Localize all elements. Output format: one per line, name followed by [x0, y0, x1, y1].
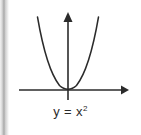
x-axis-arrow-icon — [121, 86, 129, 95]
parabola-figure: y = x2 — [0, 0, 141, 135]
equation-label: y = x2 — [0, 104, 141, 119]
y-axis-arrow-icon — [64, 12, 73, 22]
equation-label-text: y = x — [53, 104, 83, 119]
equation-exponent: 2 — [83, 104, 88, 113]
